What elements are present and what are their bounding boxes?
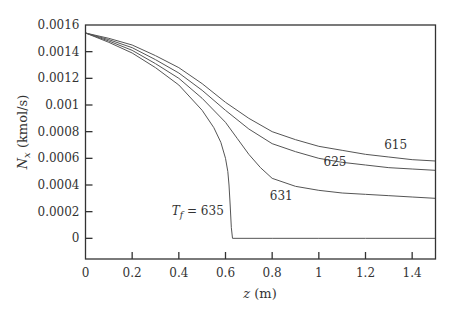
y-tick-label: 0.0008 bbox=[38, 125, 80, 139]
curve-615 bbox=[86, 33, 436, 161]
y-tick-label: 0.0002 bbox=[38, 205, 80, 219]
x-tick-label: 1.4 bbox=[403, 266, 422, 280]
curve-label-615: 615 bbox=[384, 138, 407, 152]
y-tick-label: 0.0006 bbox=[38, 151, 80, 165]
line-chart: 00.20.40.60.811.21.4 00.00020.00040.0006… bbox=[0, 0, 458, 311]
x-axis-label: z (m) bbox=[242, 286, 276, 301]
x-tick-label: 0.4 bbox=[169, 266, 188, 280]
x-tick-label: 1 bbox=[315, 266, 323, 280]
y-axis-ticks: 00.00020.00040.00060.00080.0010.00120.00… bbox=[38, 18, 93, 245]
curve-631 bbox=[86, 33, 436, 198]
y-tick-label: 0.0014 bbox=[38, 45, 80, 59]
x-tick-label: 0.6 bbox=[216, 266, 235, 280]
y-tick-label: 0.0012 bbox=[38, 71, 80, 85]
y-tick-label: 0 bbox=[72, 231, 80, 245]
curve-635 bbox=[86, 33, 436, 238]
curve-labels: 615625631Tf = 635 bbox=[172, 138, 407, 220]
y-tick-label: 0.001 bbox=[45, 98, 79, 112]
y-axis-label: Nx (kmol/s) bbox=[15, 95, 32, 171]
y-tick-label: 0.0016 bbox=[38, 18, 80, 32]
curve-label-635: Tf = 635 bbox=[172, 204, 224, 220]
x-tick-label: 0.8 bbox=[263, 266, 282, 280]
x-tick-label: 0.2 bbox=[123, 266, 142, 280]
plot-frame bbox=[86, 25, 436, 259]
curves-group bbox=[86, 33, 436, 238]
y-tick-label: 0.0004 bbox=[38, 178, 80, 192]
x-axis-ticks: 00.20.40.60.811.21.4 bbox=[82, 252, 422, 280]
curve-label-631: 631 bbox=[270, 189, 293, 203]
x-tick-label: 0 bbox=[82, 266, 90, 280]
x-tick-label: 1.2 bbox=[356, 266, 375, 280]
curve-label-625: 625 bbox=[324, 155, 347, 169]
